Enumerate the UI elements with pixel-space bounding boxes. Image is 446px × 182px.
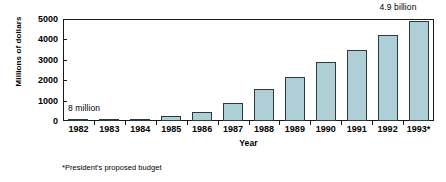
y-tick-label: 3000 — [24, 55, 58, 64]
bar-series — [63, 19, 434, 121]
bar-slot — [372, 19, 403, 121]
annotation-last-bar-value: 4.9 billion — [355, 2, 441, 12]
bar-slot — [341, 19, 372, 121]
bar-1984 — [130, 119, 150, 121]
bar-slot — [187, 19, 218, 121]
bar-slot — [125, 19, 156, 121]
bar-slot — [279, 19, 310, 121]
bar-1991 — [347, 50, 367, 121]
y-tick-label: 5000 — [24, 15, 58, 24]
y-tick-label: 2000 — [24, 76, 58, 85]
bar-1986 — [192, 112, 212, 121]
bar-1985 — [161, 116, 181, 121]
annotation-first-bar-value: 8 million — [68, 103, 100, 113]
bar-chart-figure: 4.9 billion Millions of dollars 01000200… — [0, 0, 446, 182]
bar-slot — [249, 19, 280, 121]
bar-1992 — [378, 35, 398, 121]
bar-1988 — [254, 89, 274, 121]
bar-slot — [310, 19, 341, 121]
bar-1982 — [68, 119, 88, 121]
y-tick-label: 1000 — [24, 96, 58, 105]
bar-1989 — [285, 77, 305, 121]
bar-slot — [403, 19, 434, 121]
y-tick-label: 0 — [24, 117, 58, 126]
y-axis-title: Millions of dollars — [14, 7, 23, 97]
chart-footnote: *President's proposed budget — [62, 163, 162, 172]
x-tick-label: 1993* — [399, 124, 439, 134]
bar-1987 — [223, 103, 243, 121]
bar-1990 — [316, 62, 336, 121]
bar-1993 — [409, 21, 429, 121]
bar-slot — [218, 19, 249, 121]
bar-slot — [156, 19, 187, 121]
x-axis-title: Year — [63, 138, 434, 148]
bar-1983 — [99, 119, 119, 121]
y-tick-label: 4000 — [24, 35, 58, 44]
